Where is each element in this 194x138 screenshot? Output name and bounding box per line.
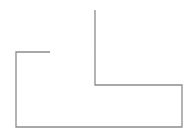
outer-path — [16, 10, 182, 127]
line-diagram — [0, 0, 194, 138]
